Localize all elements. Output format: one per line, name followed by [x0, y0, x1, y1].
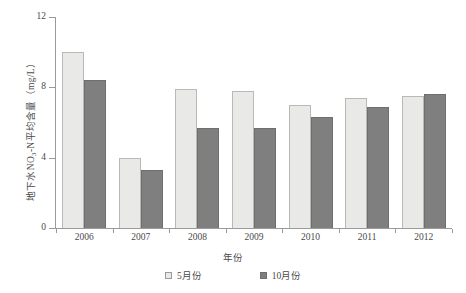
bar-group: [113, 17, 170, 228]
y-tick-mark: [49, 17, 55, 18]
y-tick-mark: [49, 87, 55, 88]
x-tick-label: 2007: [113, 232, 170, 242]
bar[interactable]: [402, 96, 424, 228]
chart-legend: 5月份10月份: [0, 268, 466, 282]
x-axis-labels: 2006200720082009201020112012: [56, 232, 452, 242]
x-tick-mark: [452, 229, 453, 233]
bar[interactable]: [289, 105, 311, 228]
x-tick-label: 2012: [395, 232, 452, 242]
y-tick-label: 8: [26, 83, 46, 93]
bar[interactable]: [424, 94, 446, 228]
legend-swatch-icon: [260, 272, 267, 279]
bar[interactable]: [311, 117, 333, 228]
x-tick-label: 2008: [169, 232, 226, 242]
legend-label: 10月份: [272, 268, 302, 282]
y-tick-label: 0: [26, 223, 46, 233]
x-tick-label: 2006: [56, 232, 113, 242]
y-axis-title-part2: -N平均含量（mg/L）: [26, 58, 36, 152]
y-axis-title-part1: 地下水NO: [26, 156, 36, 201]
bar-group: [56, 17, 113, 228]
bar-chart: 地下水NO3-N平均含量（mg/L） 04812 200620072008200…: [0, 0, 466, 293]
x-tick-label: 2009: [226, 232, 283, 242]
bar-group: [339, 17, 396, 228]
bar[interactable]: [367, 107, 389, 228]
x-axis-line: [55, 228, 452, 229]
y-tick-label: 12: [26, 12, 46, 22]
y-axis-title: 地下水NO3-N平均含量（mg/L）: [23, 30, 38, 230]
y-tick-mark: [49, 228, 55, 229]
bar-group: [282, 17, 339, 228]
legend-item[interactable]: 5月份: [165, 268, 202, 282]
legend-swatch-icon: [165, 272, 172, 279]
bar-group: [226, 17, 283, 228]
bar[interactable]: [345, 98, 367, 228]
bar[interactable]: [254, 128, 276, 228]
bar[interactable]: [197, 128, 219, 228]
bar-group: [395, 17, 452, 228]
bar-groups: [56, 17, 452, 228]
bar-group: [169, 17, 226, 228]
bar[interactable]: [232, 91, 254, 228]
y-tick-label: 4: [26, 153, 46, 163]
bar[interactable]: [175, 89, 197, 228]
bar[interactable]: [84, 80, 106, 228]
x-tick-label: 2011: [339, 232, 396, 242]
bar[interactable]: [141, 170, 163, 228]
legend-item[interactable]: 10月份: [260, 268, 302, 282]
bar[interactable]: [62, 52, 84, 228]
bar[interactable]: [119, 158, 141, 228]
y-tick-mark: [49, 158, 55, 159]
x-tick-label: 2010: [282, 232, 339, 242]
legend-label: 5月份: [177, 268, 202, 282]
x-axis-title: 年份: [0, 250, 466, 264]
